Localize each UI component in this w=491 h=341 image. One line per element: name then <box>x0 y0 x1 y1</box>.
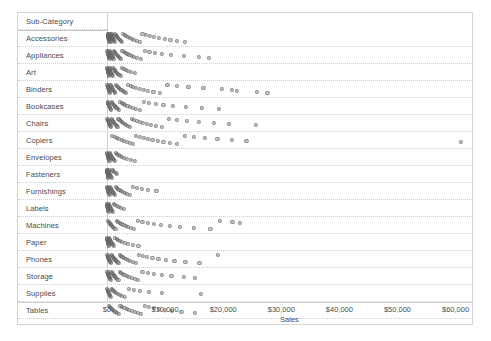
data-point[interactable] <box>230 88 234 92</box>
data-point[interactable] <box>168 224 172 228</box>
data-point[interactable] <box>215 137 219 141</box>
data-point[interactable] <box>115 172 119 176</box>
data-point[interactable] <box>124 91 128 95</box>
data-point[interactable] <box>140 187 144 191</box>
data-point[interactable] <box>193 276 197 280</box>
data-point[interactable] <box>133 71 137 75</box>
data-point[interactable] <box>138 289 142 293</box>
data-point[interactable] <box>197 120 201 124</box>
category-dots-bookcases[interactable] <box>107 98 472 114</box>
data-point[interactable] <box>158 91 162 95</box>
data-point[interactable] <box>120 40 124 44</box>
data-point[interactable] <box>146 89 150 93</box>
data-point[interactable] <box>197 261 201 265</box>
category-dots-copiers[interactable] <box>107 132 472 148</box>
data-point[interactable] <box>150 256 154 260</box>
data-point[interactable] <box>143 49 147 53</box>
data-point[interactable] <box>175 118 179 122</box>
category-dots-fasteners[interactable] <box>107 166 472 182</box>
data-point[interactable] <box>109 108 113 112</box>
data-point[interactable] <box>146 188 150 192</box>
data-point[interactable] <box>216 107 220 111</box>
data-point[interactable] <box>122 207 126 211</box>
data-point[interactable] <box>150 138 154 142</box>
data-point[interactable] <box>147 101 151 105</box>
data-point[interactable] <box>199 292 203 296</box>
category-dots-furnishings[interactable] <box>107 183 472 199</box>
data-point[interactable] <box>159 223 163 227</box>
category-dots-envelopes[interactable] <box>107 149 472 165</box>
category-dots-art[interactable] <box>107 64 472 80</box>
data-point[interactable] <box>112 244 116 248</box>
data-point[interactable] <box>191 226 195 230</box>
data-point[interactable] <box>145 255 149 259</box>
data-point[interactable] <box>160 273 164 277</box>
data-point[interactable] <box>207 56 211 60</box>
data-point[interactable] <box>171 104 175 108</box>
data-point[interactable] <box>201 86 205 90</box>
data-point[interactable] <box>154 124 158 128</box>
data-point[interactable] <box>146 137 150 141</box>
data-point[interactable] <box>133 159 137 163</box>
data-point[interactable] <box>154 189 158 193</box>
data-point[interactable] <box>200 106 204 110</box>
data-point[interactable] <box>234 89 238 93</box>
data-point[interactable] <box>230 138 234 142</box>
data-point[interactable] <box>149 123 153 127</box>
data-point[interactable] <box>169 274 173 278</box>
data-point[interactable] <box>117 108 121 112</box>
data-point[interactable] <box>137 108 141 112</box>
data-point[interactable] <box>265 91 269 95</box>
category-dots-binders[interactable] <box>107 81 472 97</box>
data-point[interactable] <box>152 222 156 226</box>
category-dots-accessories[interactable] <box>107 30 472 46</box>
data-point[interactable] <box>132 288 136 292</box>
data-point[interactable] <box>192 135 196 139</box>
category-dots-labels[interactable] <box>107 200 472 216</box>
data-point[interactable] <box>175 39 179 43</box>
data-point[interactable] <box>160 125 164 129</box>
data-point[interactable] <box>130 142 134 146</box>
data-point[interactable] <box>182 54 186 58</box>
data-point[interactable] <box>220 87 224 91</box>
data-point[interactable] <box>178 225 182 229</box>
data-point[interactable] <box>172 259 176 263</box>
data-point[interactable] <box>111 57 115 61</box>
data-point[interactable] <box>166 117 170 121</box>
data-point[interactable] <box>135 186 139 190</box>
data-point[interactable] <box>161 140 165 144</box>
data-point[interactable] <box>109 261 113 265</box>
data-point[interactable] <box>157 36 161 40</box>
data-point[interactable] <box>183 260 187 264</box>
data-point[interactable] <box>127 287 131 291</box>
data-point[interactable] <box>113 40 117 44</box>
data-point[interactable] <box>175 142 179 146</box>
category-dots-paper[interactable] <box>107 234 472 250</box>
data-point[interactable] <box>164 258 168 262</box>
data-point[interactable] <box>115 125 119 129</box>
data-point[interactable] <box>244 139 248 143</box>
category-dots-phones[interactable] <box>107 251 472 267</box>
data-point[interactable] <box>459 140 463 144</box>
data-point[interactable] <box>184 119 188 123</box>
data-point[interactable] <box>160 291 164 295</box>
data-point[interactable] <box>152 35 156 39</box>
data-point[interactable] <box>113 227 117 231</box>
data-point[interactable] <box>238 221 242 225</box>
data-point[interactable] <box>161 103 165 107</box>
data-point[interactable] <box>109 125 113 129</box>
data-point[interactable] <box>130 243 134 247</box>
data-point[interactable] <box>155 139 159 143</box>
data-point[interactable] <box>227 122 231 126</box>
data-point[interactable] <box>255 90 259 94</box>
data-point[interactable] <box>134 261 138 265</box>
data-point[interactable] <box>128 125 132 129</box>
data-point[interactable] <box>156 257 160 261</box>
data-point[interactable] <box>137 40 141 44</box>
data-point[interactable] <box>109 176 113 180</box>
data-point[interactable] <box>160 52 164 56</box>
data-point[interactable] <box>113 193 117 197</box>
category-dots-supplies[interactable] <box>107 285 472 301</box>
data-point[interactable] <box>119 74 123 78</box>
data-point[interactable] <box>111 210 115 214</box>
